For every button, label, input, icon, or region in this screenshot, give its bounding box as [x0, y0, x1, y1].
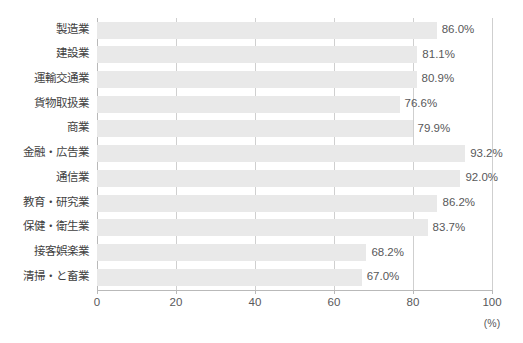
category-label: 製造業 [56, 21, 89, 38]
plot-area: 86.0%81.1%80.9%76.6%79.9%93.2%92.0%86.2%… [97, 18, 492, 290]
category-row: 運輸交通業 [0, 67, 89, 92]
category-row: 製造業 [0, 18, 89, 43]
bar-row: 79.9% [97, 117, 492, 142]
x-tick-100 [492, 290, 493, 294]
category-row: 教育・研究業 [0, 191, 89, 216]
x-tick-label: 100 [482, 296, 501, 308]
bar [97, 120, 413, 137]
bar-value-label: 67.0% [362, 268, 400, 285]
category-label: 清掃・と畜業 [23, 268, 89, 285]
x-axis-unit-label: (%) [484, 317, 500, 329]
bar [97, 219, 428, 236]
category-label: 教育・研究業 [23, 194, 89, 211]
bar-value-label: 86.2% [437, 194, 475, 211]
category-row: 金融・広告業 [0, 142, 89, 167]
category-row: 通信業 [0, 166, 89, 191]
category-row: 保健・衛生業 [0, 216, 89, 241]
bar-value-label: 76.6% [400, 95, 438, 112]
x-axis-line [97, 290, 493, 291]
bar-row: 86.0% [97, 18, 492, 43]
x-tick-label: 60 [328, 296, 341, 308]
bar [97, 244, 366, 261]
bar-chart: 製造業建設業運輸交通業貨物取扱業商業金融・広告業通信業教育・研究業保健・衛生業接… [0, 0, 523, 343]
category-label: 接客娯楽業 [34, 243, 89, 260]
x-tick-label: 40 [249, 296, 262, 308]
bar [97, 71, 417, 88]
category-label: 貨物取扱業 [34, 95, 89, 112]
bar [97, 22, 437, 39]
category-row: 建設業 [0, 43, 89, 68]
category-label: 商業 [67, 119, 89, 136]
x-tick-label: 80 [407, 296, 420, 308]
category-label: 建設業 [56, 45, 89, 62]
x-tick-label: 0 [94, 296, 100, 308]
x-tick-20 [176, 290, 177, 294]
bar-value-label: 81.1% [417, 46, 455, 63]
bar-value-label: 68.2% [366, 244, 404, 261]
x-tick-80 [413, 290, 414, 294]
bar-rows: 86.0%81.1%80.9%76.6%79.9%93.2%92.0%86.2%… [97, 18, 492, 290]
bar [97, 96, 400, 113]
bar-value-label: 79.9% [413, 120, 451, 137]
x-tick-label: 20 [170, 296, 183, 308]
bar [97, 145, 465, 162]
bar-row: 93.2% [97, 142, 492, 167]
bar-value-label: 83.7% [428, 219, 466, 236]
bar-row: 76.6% [97, 92, 492, 117]
x-tick-60 [334, 290, 335, 294]
category-row: 商業 [0, 117, 89, 142]
bar-row: 67.0% [97, 265, 492, 290]
category-row: 接客娯楽業 [0, 241, 89, 266]
bar-row: 92.0% [97, 166, 492, 191]
category-row: 清掃・と畜業 [0, 265, 89, 290]
bar-row: 86.2% [97, 191, 492, 216]
category-row: 貨物取扱業 [0, 92, 89, 117]
category-label: 保健・衛生業 [23, 218, 89, 235]
category-label: 金融・広告業 [23, 144, 89, 161]
x-tick-0 [97, 290, 98, 294]
bar-value-label: 93.2% [465, 145, 503, 162]
bar [97, 269, 362, 286]
bar-row: 68.2% [97, 241, 492, 266]
x-tick-40 [255, 290, 256, 294]
category-label: 運輸交通業 [34, 70, 89, 87]
category-axis-labels: 製造業建設業運輸交通業貨物取扱業商業金融・広告業通信業教育・研究業保健・衛生業接… [0, 18, 89, 290]
bar-value-label: 80.9% [417, 70, 455, 87]
bar-value-label: 86.0% [437, 21, 475, 38]
category-label: 通信業 [56, 169, 89, 186]
bar-row: 81.1% [97, 43, 492, 68]
bar [97, 46, 417, 63]
bar-row: 80.9% [97, 67, 492, 92]
bar-value-label: 92.0% [460, 169, 498, 186]
bar [97, 195, 437, 212]
bar-row: 83.7% [97, 216, 492, 241]
bar [97, 170, 460, 187]
